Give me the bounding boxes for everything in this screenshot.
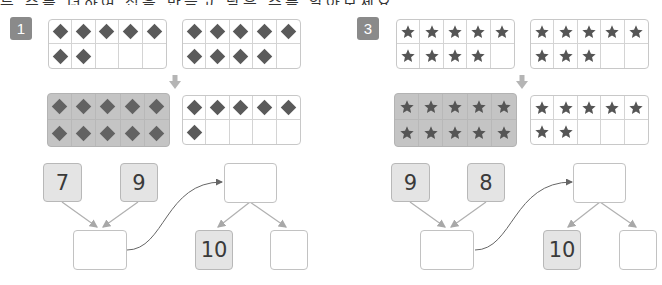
ten-frame-cell — [72, 20, 95, 44]
diamond-icon — [186, 124, 202, 140]
decomposition-top-answer-box[interactable] — [573, 163, 626, 203]
ten-frame-cell — [96, 120, 120, 146]
sum-answer-box[interactable] — [73, 230, 127, 270]
star-icon — [558, 24, 574, 40]
diamond-icon — [149, 125, 165, 141]
star-icon — [496, 125, 512, 141]
ten-frame-cell — [601, 44, 624, 68]
ten-frame-cell — [601, 20, 624, 44]
star-icon — [581, 48, 597, 64]
ten-frame-cell — [121, 94, 145, 120]
ten-frame-addend-2 — [182, 19, 301, 69]
diamond-icon — [233, 100, 249, 116]
ten-frame-cell — [145, 94, 169, 120]
ten-frame-cell — [72, 120, 96, 146]
ten-frame-cell — [49, 44, 72, 68]
ten-frame-cell — [531, 20, 554, 44]
diamond-icon — [186, 24, 202, 40]
ten-frame-cell — [183, 96, 206, 120]
ten-frame-cell — [96, 44, 119, 68]
addend-1-box: 9 — [391, 163, 430, 202]
star-icon — [604, 24, 620, 40]
ten-frame-cell — [48, 120, 72, 146]
diamond-icon — [257, 24, 273, 40]
ten-frame-cell — [625, 96, 648, 120]
ten-frame-cell — [492, 94, 516, 120]
ten-frame-cell — [531, 96, 554, 120]
ten-frame-cell — [119, 44, 142, 68]
diamond-icon — [281, 100, 297, 116]
star-icon — [447, 24, 463, 40]
ten-frame-cell — [121, 120, 145, 146]
ten-frame-cell — [419, 94, 443, 120]
ten-frame-cell — [206, 96, 229, 120]
diamond-icon — [76, 24, 92, 40]
ten-frame-cell — [468, 120, 492, 146]
diamond-icon — [52, 24, 68, 40]
ten-frame-cell — [420, 44, 443, 68]
star-icon — [400, 48, 416, 64]
ten-frame-cell — [397, 44, 420, 68]
ten-frame-cell — [277, 120, 300, 144]
star-icon — [470, 48, 486, 64]
ten-frame-full-ten — [394, 93, 517, 147]
diamond-icon — [52, 48, 68, 64]
ten-frame-cell — [601, 120, 624, 144]
star-icon — [534, 48, 550, 64]
ten-frame-cell — [468, 94, 492, 120]
diamond-icon — [124, 125, 140, 141]
ten-frame-cell — [206, 20, 229, 44]
ten-frame-remainder — [182, 95, 301, 145]
star-icon — [534, 100, 550, 116]
ten-frame-cell — [96, 94, 120, 120]
ten-frame-cell — [183, 20, 206, 44]
ten-frame-cell — [230, 44, 253, 68]
ten-frame-cell — [277, 44, 300, 68]
ten-frame-cell — [578, 44, 601, 68]
diamond-icon — [52, 125, 68, 141]
sum-answer-box[interactable] — [420, 230, 474, 270]
star-icon — [534, 24, 550, 40]
diamond-icon — [147, 24, 163, 40]
star-icon — [581, 100, 597, 116]
ten-frame-cell — [206, 44, 229, 68]
ten-frame-addend-1 — [48, 19, 167, 69]
ten-frame-cell — [145, 120, 169, 146]
ten-frame-cell — [230, 120, 253, 144]
diamond-icon — [210, 24, 226, 40]
decomposition-ones-answer-box[interactable] — [619, 230, 657, 270]
ten-frame-cell — [601, 96, 624, 120]
diamond-icon — [100, 99, 116, 115]
star-icon — [494, 24, 510, 40]
ten-frame-cell — [531, 120, 554, 144]
diamond-icon — [124, 99, 140, 115]
ten-frame-cell — [253, 120, 276, 144]
ten-frame-cell — [420, 20, 443, 44]
decomposition-top-answer-box[interactable] — [224, 163, 277, 203]
star-icon — [496, 99, 512, 115]
ten-frame-cell — [467, 44, 490, 68]
diamond-icon — [233, 24, 249, 40]
diamond-icon — [76, 99, 92, 115]
ten-frame-cell — [230, 96, 253, 120]
diamond-icon — [210, 48, 226, 64]
ten-frame-cell — [395, 120, 419, 146]
diamond-icon — [210, 100, 226, 116]
star-icon — [423, 99, 439, 115]
decomposition-ones-answer-box[interactable] — [270, 230, 308, 270]
ten-frame-cell — [554, 20, 577, 44]
star-icon — [447, 99, 463, 115]
star-icon — [558, 48, 574, 64]
star-icon — [558, 100, 574, 116]
star-icon — [424, 24, 440, 40]
diamond-icon — [99, 24, 115, 40]
decomposition-tens-box: 10 — [543, 230, 581, 270]
diamond-icon — [257, 48, 273, 64]
ten-frame-cell — [72, 44, 95, 68]
ten-frame-cell — [578, 20, 601, 44]
ten-frame-cell — [491, 44, 514, 68]
star-icon — [628, 24, 644, 40]
diamond-icon — [186, 48, 202, 64]
star-icon — [423, 125, 439, 141]
ten-frame-cell — [143, 44, 166, 68]
